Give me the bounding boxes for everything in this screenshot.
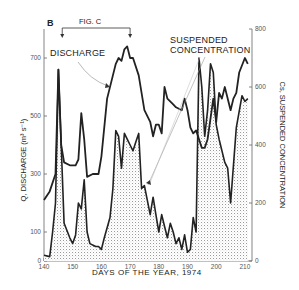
chart-canvas: 1401501601701801902002100100300500700020…	[0, 0, 299, 290]
suspended-label-line1: SUSPENDED	[170, 35, 250, 45]
svg-text:150: 150	[67, 263, 78, 270]
svg-text:800: 800	[255, 25, 266, 32]
suspended-label-line2: CONCENTRATION	[170, 45, 250, 55]
y-axis-left-title: Q, DISCHARGE (m³ s⁻¹)	[19, 119, 28, 202]
svg-text:400: 400	[255, 141, 266, 148]
svg-text:500: 500	[30, 112, 41, 119]
fig-c-label: FIG. C	[79, 17, 101, 26]
svg-text:0: 0	[255, 257, 259, 264]
suspended-concentration-fill	[44, 58, 248, 261]
x-axis-title: DAYS OF THE YEAR, 1974	[92, 268, 202, 277]
svg-text:200: 200	[255, 199, 266, 206]
suspended-concentration-label: SUSPENDED CONCENTRATION	[170, 35, 250, 55]
svg-text:0: 0	[37, 257, 41, 264]
y-axis-right-title: Cs, SUSPENDED CONCENTRATION	[278, 82, 287, 209]
svg-text:700: 700	[30, 54, 41, 61]
discharge-label: DISCHARGE	[50, 48, 105, 58]
svg-text:600: 600	[255, 83, 266, 90]
svg-text:100: 100	[30, 228, 41, 235]
svg-text:210: 210	[239, 263, 250, 270]
panel-label: B	[47, 18, 54, 28]
svg-text:300: 300	[30, 170, 41, 177]
svg-text:200: 200	[211, 263, 222, 270]
